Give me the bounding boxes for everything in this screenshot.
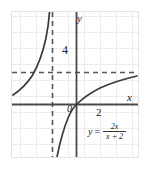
equation-lhs: y — [88, 126, 92, 137]
equation-equals-sign: = — [94, 126, 100, 137]
equation-numerator: 2x — [108, 122, 122, 131]
origin-label: 0 — [67, 104, 72, 114]
x-tick-label-2: 2 — [96, 107, 102, 118]
y-tick-label-4: 4 — [62, 44, 68, 56]
rational-function-graph-figure: y x 0 2 4 y = 2x x + 2 — [0, 0, 150, 171]
x-axis-label: x — [127, 92, 132, 103]
y-axis-label: y — [77, 13, 82, 24]
equation-denominator: x + 2 — [103, 131, 126, 141]
equation-annotation: y = 2x x + 2 — [88, 122, 126, 141]
equation-fraction: 2x x + 2 — [103, 122, 126, 141]
curve-left-branch — [13, 12, 50, 95]
